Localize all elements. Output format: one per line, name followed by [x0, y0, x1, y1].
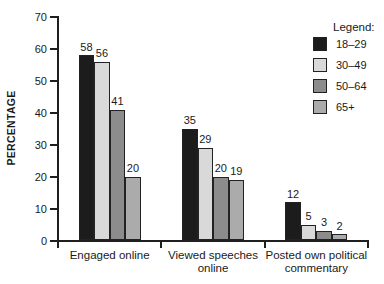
category-label: Viewed speeches online — [158, 249, 268, 275]
y-tick-mark — [50, 208, 57, 210]
legend: Legend: 18–2930–4950–6465+ — [313, 21, 375, 121]
bar-value-label: 29 — [190, 133, 222, 145]
y-tick-mark — [50, 240, 57, 242]
x-tick-mark — [264, 242, 266, 248]
legend-item: 18–29 — [313, 37, 375, 51]
y-tick-mark — [50, 176, 57, 178]
y-tick-label: 50 — [17, 75, 47, 87]
y-tick-label: 30 — [17, 139, 47, 151]
y-axis-line — [57, 16, 59, 242]
legend-swatch — [313, 37, 327, 51]
legend-item-label: 30–49 — [336, 59, 367, 71]
bar — [182, 129, 198, 241]
y-tick-mark — [50, 80, 57, 82]
bar-value-label: 20 — [117, 162, 149, 174]
bar — [110, 110, 126, 241]
y-tick-label: 70 — [17, 11, 47, 23]
legend-item: 65+ — [313, 100, 375, 114]
bar-value-label: 35 — [174, 114, 206, 126]
x-tick-mark — [367, 242, 369, 248]
legend-title: Legend: — [333, 21, 375, 33]
y-tick-label: 20 — [17, 171, 47, 183]
grouped-bar-chart: PERCENTAGE 010203040506070Engaged online… — [0, 0, 384, 284]
bar — [332, 234, 348, 240]
legend-item-label: 50–64 — [336, 80, 367, 92]
y-tick-mark — [50, 16, 57, 18]
y-axis-title: PERCENTAGE — [5, 90, 17, 165]
y-tick-mark — [50, 112, 57, 114]
bar-value-label: 41 — [102, 95, 134, 107]
legend-items: 18–2930–4950–6465+ — [313, 37, 375, 114]
bar — [229, 180, 245, 241]
x-tick-mark — [160, 242, 162, 248]
y-tick-label: 60 — [17, 43, 47, 55]
bar-value-label: 2 — [324, 220, 356, 232]
bar-value-label: 19 — [221, 165, 253, 177]
legend-item: 30–49 — [313, 58, 375, 72]
legend-swatch — [313, 100, 327, 114]
bar — [213, 177, 229, 241]
y-tick-label: 40 — [17, 107, 47, 119]
bar — [125, 177, 141, 241]
x-tick-mark — [57, 242, 59, 248]
legend-item: 50–64 — [313, 79, 375, 93]
category-label: Engaged online — [55, 249, 165, 262]
y-tick-label: 10 — [17, 203, 47, 215]
legend-item-label: 65+ — [336, 101, 355, 113]
legend-swatch — [313, 79, 327, 93]
category-label: Posted own political commentary — [261, 249, 371, 275]
legend-swatch — [313, 58, 327, 72]
bar-value-label: 56 — [86, 47, 118, 59]
y-tick-mark — [50, 48, 57, 50]
bar — [94, 62, 110, 241]
y-tick-mark — [50, 144, 57, 146]
bar-value-label: 12 — [277, 188, 309, 200]
bar — [316, 231, 332, 241]
legend-item-label: 18–29 — [336, 38, 367, 50]
y-tick-label: 0 — [17, 235, 47, 247]
bar — [79, 55, 95, 240]
